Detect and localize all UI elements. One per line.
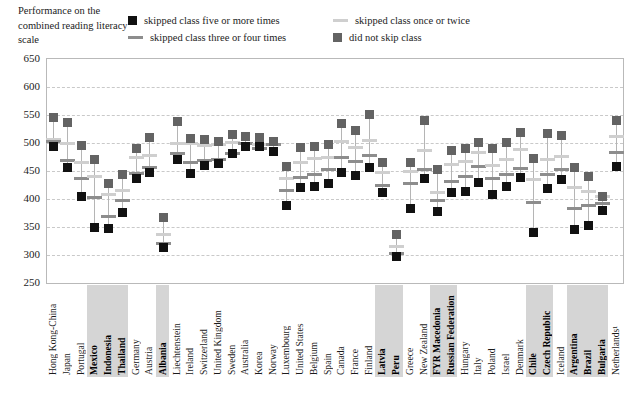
connector-line bbox=[506, 142, 507, 186]
data-column bbox=[390, 59, 404, 283]
data-point bbox=[612, 116, 621, 125]
data-column bbox=[143, 59, 157, 283]
data-point bbox=[471, 151, 486, 154]
data-point bbox=[430, 191, 445, 194]
data-point bbox=[63, 163, 72, 172]
data-point bbox=[420, 116, 429, 125]
data-point bbox=[570, 163, 579, 172]
data-point bbox=[447, 146, 456, 155]
x-tick-label: Italy bbox=[471, 285, 485, 377]
footnote-mark bbox=[46, 372, 60, 378]
data-point bbox=[118, 208, 127, 217]
data-point bbox=[142, 154, 157, 157]
data-point bbox=[186, 134, 195, 143]
x-tick-label: Denmark bbox=[512, 285, 526, 377]
data-point bbox=[378, 158, 387, 167]
data-point bbox=[101, 193, 116, 196]
data-point bbox=[214, 137, 223, 146]
x-tick-label: Belgium bbox=[307, 285, 321, 377]
data-point bbox=[595, 202, 610, 205]
x-tick-label: Finland bbox=[361, 285, 375, 377]
data-point bbox=[115, 189, 130, 192]
data-point bbox=[529, 228, 538, 237]
data-point bbox=[485, 177, 500, 180]
y-axis-title: Performance on the combined reading lite… bbox=[18, 4, 133, 48]
data-point bbox=[375, 171, 390, 174]
data-point bbox=[598, 192, 607, 201]
data-point bbox=[334, 156, 349, 159]
y-tick-label-600: 600 bbox=[0, 80, 40, 92]
data-point bbox=[417, 168, 432, 171]
data-point bbox=[458, 175, 473, 178]
data-point bbox=[554, 155, 569, 158]
data-point bbox=[348, 146, 363, 149]
data-point bbox=[321, 168, 336, 171]
data-column bbox=[61, 59, 75, 283]
data-point bbox=[461, 144, 470, 153]
data-point bbox=[406, 204, 415, 213]
data-point bbox=[101, 215, 116, 218]
data-point bbox=[269, 147, 278, 156]
data-column bbox=[568, 59, 582, 283]
legend-item-did-not-skip: did not skip class bbox=[333, 29, 628, 46]
data-point bbox=[337, 168, 346, 177]
y-tick-label-250: 250 bbox=[0, 276, 40, 288]
data-point bbox=[118, 170, 127, 179]
data-column bbox=[513, 59, 527, 283]
data-point bbox=[228, 130, 237, 139]
legend-swatch-line-gray bbox=[128, 36, 143, 39]
data-point bbox=[499, 158, 514, 161]
data-column bbox=[404, 59, 418, 283]
data-point bbox=[581, 190, 596, 193]
x-tick-label: Japan bbox=[60, 285, 74, 377]
data-column bbox=[376, 59, 390, 283]
data-point bbox=[104, 224, 113, 233]
connector-line bbox=[300, 147, 301, 187]
data-column bbox=[541, 59, 555, 283]
x-tick-label: Canada bbox=[334, 285, 348, 377]
data-column bbox=[212, 59, 226, 283]
data-point bbox=[499, 173, 514, 176]
x-tick-label: Norway bbox=[265, 285, 279, 377]
data-column bbox=[116, 59, 130, 283]
data-point bbox=[474, 138, 483, 147]
data-point bbox=[529, 154, 538, 163]
connector-line bbox=[520, 132, 521, 177]
data-point bbox=[324, 179, 333, 188]
data-column bbox=[335, 59, 349, 283]
data-column bbox=[486, 59, 500, 283]
data-point bbox=[348, 160, 363, 163]
data-point bbox=[310, 182, 319, 191]
x-tick-label: Portugal bbox=[73, 285, 87, 377]
data-point bbox=[63, 118, 72, 127]
data-point bbox=[502, 182, 511, 191]
legend-item-once-or-twice: skipped class once or twice bbox=[333, 12, 628, 29]
legend-swatch-square-black bbox=[128, 16, 137, 25]
data-column bbox=[47, 59, 61, 283]
y-tick-label-400: 400 bbox=[0, 192, 40, 204]
x-tick-label: Russian Federation bbox=[444, 285, 458, 377]
data-point bbox=[516, 128, 525, 137]
data-point bbox=[502, 138, 511, 147]
x-tick-label: Mexico bbox=[87, 285, 101, 377]
legend-label-three-or-four: skipped class three or four times bbox=[150, 32, 286, 43]
data-point bbox=[444, 180, 459, 183]
data-point bbox=[598, 206, 607, 215]
data-point bbox=[337, 119, 346, 128]
data-point bbox=[447, 188, 456, 197]
data-column bbox=[431, 59, 445, 283]
data-point bbox=[609, 135, 624, 138]
legend-item-five-or-more: skipped class five or more times bbox=[128, 12, 333, 29]
chart-root: Performance on the combined reading lite… bbox=[0, 0, 638, 396]
data-point bbox=[365, 110, 374, 119]
data-point bbox=[241, 132, 250, 141]
data-point bbox=[132, 144, 141, 153]
data-column bbox=[362, 59, 376, 283]
connector-line bbox=[355, 131, 356, 176]
data-point bbox=[159, 213, 168, 222]
x-tick-label: Bulgaria bbox=[595, 285, 609, 377]
x-tick-label: Liechtenstein bbox=[169, 285, 183, 377]
x-tick-label: Chile bbox=[526, 285, 540, 377]
y-tick-label-300: 300 bbox=[0, 248, 40, 260]
data-column bbox=[294, 59, 308, 283]
